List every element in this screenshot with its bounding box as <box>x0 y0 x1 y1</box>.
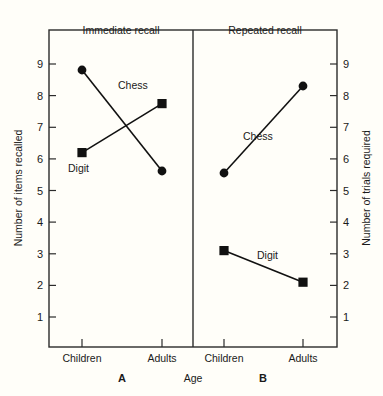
right-axis-ticks <box>330 64 337 317</box>
right-tick-label-4: 4 <box>343 216 349 228</box>
panel-a-digit-label: Digit <box>68 162 89 174</box>
panel-a-digit-point-adults <box>157 99 166 108</box>
panel-b-digit-label: Digit <box>257 249 278 261</box>
cat-label-b-children: Children <box>204 352 243 364</box>
panel-a-title: Immediate recall <box>82 24 159 36</box>
cat-label-b-adults: Adults <box>288 352 317 364</box>
right-tick-label-2: 2 <box>343 279 349 291</box>
left-tick-label-1: 1 <box>37 311 43 323</box>
cat-label-a-children: Children <box>62 352 101 364</box>
left-tick-label-2: 2 <box>37 279 43 291</box>
panel-b-chess-label: Chess <box>243 130 273 142</box>
panel-b-chess-point-children <box>220 169 229 178</box>
right-axis-title: Number of trials required <box>360 130 372 246</box>
right-tick-label-8: 8 <box>343 90 349 102</box>
right-tick-label-7: 7 <box>343 121 349 133</box>
left-tick-label-3: 3 <box>37 248 43 260</box>
panel-b-digit-point-adults <box>298 278 307 287</box>
left-axis-title: Number of items recalled <box>12 129 24 246</box>
right-tick-label-1: 1 <box>343 311 349 323</box>
right-tick-label-6: 6 <box>343 153 349 165</box>
left-tick-label-9: 9 <box>37 58 43 70</box>
right-tick-label-9: 9 <box>343 58 349 70</box>
panel-b-letter: B <box>259 372 267 384</box>
right-tick-label-3: 3 <box>343 248 349 260</box>
panel-a-chess-point-children <box>78 66 87 75</box>
panel-a-chess-label: Chess <box>118 79 148 91</box>
x-axis-title: Age <box>184 372 203 384</box>
left-axis-tick-labels: 9 8 7 6 5 4 3 2 1 <box>37 58 43 323</box>
panel-a-digit-line <box>82 104 162 153</box>
left-axis-ticks <box>49 64 56 317</box>
left-tick-label-4: 4 <box>37 216 43 228</box>
panel-b-digit-point-children <box>219 246 228 255</box>
right-axis-tick-labels: 9 8 7 6 5 4 3 2 1 <box>343 58 349 323</box>
panel-a-chess-point-adults <box>158 167 167 176</box>
panel-b-chess-point-adults <box>299 82 308 91</box>
cat-label-a-adults: Adults <box>147 352 176 364</box>
right-tick-label-5: 5 <box>343 185 349 197</box>
left-tick-label-6: 6 <box>37 153 43 165</box>
chart-figure: 9 8 7 6 5 4 3 2 1 9 8 7 6 5 <box>0 0 383 396</box>
panel-b-title: Repeated recall <box>228 24 302 36</box>
chart-svg: 9 8 7 6 5 4 3 2 1 9 8 7 6 5 <box>0 0 383 396</box>
left-tick-label-5: 5 <box>37 185 43 197</box>
panel-a-series-digit <box>77 99 166 157</box>
panel-a-letter: A <box>118 372 126 384</box>
left-tick-label-7: 7 <box>37 121 43 133</box>
left-tick-label-8: 8 <box>37 90 43 102</box>
panel-a-digit-point-children <box>77 148 86 157</box>
